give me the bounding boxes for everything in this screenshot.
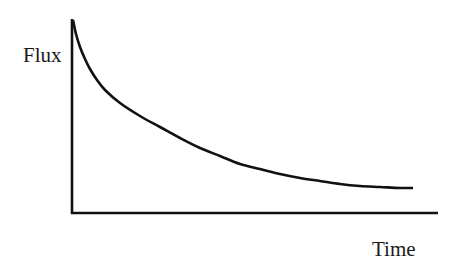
flux-time-chart xyxy=(0,0,466,273)
flux-decay-curve xyxy=(73,20,413,188)
x-axis-label: Time xyxy=(372,239,416,260)
y-axis-label: Flux xyxy=(23,45,62,66)
